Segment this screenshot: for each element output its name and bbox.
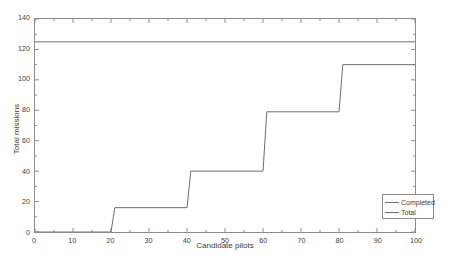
legend-item-completed: Completed — [385, 197, 431, 207]
plot-area — [34, 18, 416, 233]
y-tick-0: 0 — [8, 229, 30, 236]
figure-canvas: 0102030405060708090100 02040608010012014… — [0, 0, 453, 257]
y-tick-140: 140 — [8, 14, 30, 21]
axis-tick-marks — [35, 19, 415, 232]
legend-label-total: Total — [401, 209, 416, 216]
plot-svg — [35, 19, 415, 232]
legend-label-completed: Completed — [401, 199, 435, 206]
legend-swatch-total — [385, 212, 399, 213]
x-axis-title: Candidate pilots — [34, 242, 416, 250]
y-tick-20: 20 — [8, 199, 30, 206]
y-tick-120: 120 — [8, 45, 30, 52]
legend-item-total: Total — [385, 207, 431, 217]
legend-swatch-completed — [385, 202, 399, 203]
legend-box: Completed Total — [382, 194, 434, 219]
y-axis-title: Total missions — [13, 79, 21, 179]
series-line-completed — [35, 65, 415, 232]
